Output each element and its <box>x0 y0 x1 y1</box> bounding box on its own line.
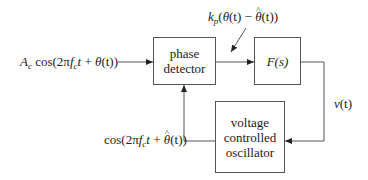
loop-filter-label: F(s) <box>267 54 289 69</box>
input-signal-label: Ac cos(2πfct + θ(t)) <box>20 55 118 69</box>
connections-layer <box>0 0 368 180</box>
control-voltage-label: v(t) <box>334 97 352 111</box>
vco-label-line2: controlled <box>224 130 277 145</box>
phase-detector-label-line2: detector <box>164 61 206 76</box>
vco-output-label: cos(2πfct + θ(t)) <box>104 133 187 147</box>
pd-output-pointer-arrow <box>231 28 246 52</box>
vco-label-line3: oscillator <box>226 145 274 160</box>
phase-detector-label-line1: phase <box>170 46 200 61</box>
loop-filter-block: F(s) <box>254 37 301 85</box>
vco-label-line1: voltage <box>231 115 269 130</box>
vco-feedback-arrow <box>184 85 215 141</box>
phase-detector-block: phase detector <box>153 37 216 85</box>
pd-output-label: kp(θ(t) − θ(t)) <box>208 10 278 24</box>
vco-block: voltage controlled oscillator <box>215 101 285 173</box>
